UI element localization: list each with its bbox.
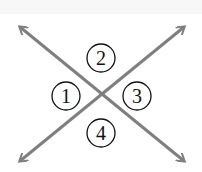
angle-4-marker: 4 <box>87 119 115 147</box>
angle-3-label: 3 <box>132 85 142 107</box>
intersecting-lines-diagram: 1 2 3 4 <box>0 0 202 172</box>
angle-2-marker: 2 <box>87 44 115 72</box>
angle-4-label: 4 <box>96 122 106 144</box>
angle-3-marker: 3 <box>123 82 151 110</box>
angle-2-label: 2 <box>96 47 106 69</box>
angle-1-marker: 1 <box>52 82 80 110</box>
angle-1-label: 1 <box>61 85 71 107</box>
